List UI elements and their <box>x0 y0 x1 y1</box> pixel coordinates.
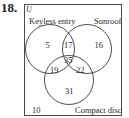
set-label-compact-disc: Compact disc <box>75 105 122 115</box>
universe-label: U <box>26 5 33 14</box>
set-label-sunroof: Sunroof <box>94 16 122 26</box>
region-sunroof-only: 16 <box>95 40 104 50</box>
region-sunroof-compact-disc: 22 <box>76 65 85 75</box>
venn-diagram: U Keyless entry Sunroof Compact disc 5 1… <box>0 0 129 118</box>
set-label-keyless-entry: Keyless entry <box>29 16 76 26</box>
region-none: 10 <box>32 105 41 115</box>
region-keyless-sunroof: 17 <box>64 40 73 50</box>
region-all-three: 35 <box>64 55 73 65</box>
region-keyless-only: 5 <box>46 40 50 50</box>
region-compact-disc-only: 31 <box>65 86 74 96</box>
region-keyless-compact-disc: 19 <box>50 65 59 75</box>
